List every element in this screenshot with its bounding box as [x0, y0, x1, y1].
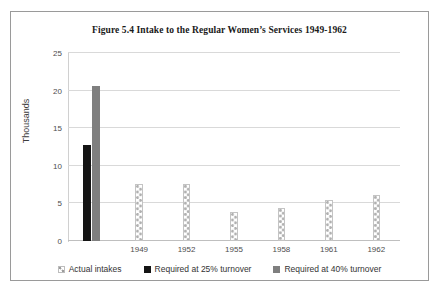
x-axis-tick-label: 1961 — [320, 245, 338, 254]
x-axis-tick-label: 1949 — [130, 245, 148, 254]
bar — [230, 212, 238, 241]
chart-title: Figure 5.4 Intake to the Regular Women’s… — [11, 25, 428, 35]
y-axis-tick-label: 10 — [22, 161, 62, 170]
gridline — [68, 202, 400, 203]
bar — [92, 86, 100, 241]
gridline — [68, 127, 400, 128]
gridline — [68, 90, 400, 91]
bar — [135, 184, 143, 241]
legend-item-label: Required at 25% turnover — [155, 264, 252, 274]
y-axis-tick-labels: 0510152025 — [19, 53, 62, 241]
legend-swatch-icon — [58, 266, 65, 273]
x-axis-tick-labels: 194919521955195819611962 — [68, 245, 400, 259]
chart-legend: Actual intakesRequired at 25% turnoverRe… — [11, 264, 428, 274]
chart-figure-frame: Figure 5.4 Intake to the Regular Women’s… — [10, 11, 429, 281]
y-axis-tick-label: 25 — [22, 49, 62, 58]
legend-swatch-icon — [144, 266, 151, 273]
legend-item: Required at 40% turnover — [273, 264, 381, 274]
bar — [83, 145, 91, 241]
bar — [183, 184, 191, 241]
bar — [325, 200, 333, 241]
x-axis-tick-label: 1962 — [367, 245, 385, 254]
x-axis-tick-label: 1958 — [273, 245, 291, 254]
y-axis-tick-label: 15 — [22, 124, 62, 133]
legend-item: Actual intakes — [58, 264, 122, 274]
gridline — [68, 165, 400, 166]
y-axis-tick-label: 5 — [22, 199, 62, 208]
y-axis-tick-label: 0 — [22, 237, 62, 246]
legend-swatch-icon — [273, 266, 280, 273]
bar — [373, 195, 381, 241]
legend-item-label: Required at 40% turnover — [284, 264, 381, 274]
plot-area — [68, 53, 400, 241]
x-axis-tick-label: 1955 — [225, 245, 243, 254]
y-axis-tick-label: 20 — [22, 86, 62, 95]
legend-item: Required at 25% turnover — [144, 264, 252, 274]
legend-item-label: Actual intakes — [69, 264, 122, 274]
bar — [278, 208, 286, 241]
gridline — [68, 52, 400, 53]
x-axis-tick-label: 1952 — [178, 245, 196, 254]
